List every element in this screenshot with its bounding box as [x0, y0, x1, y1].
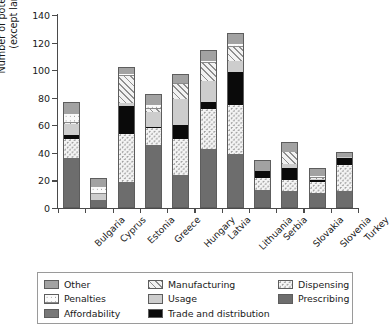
legend-label: Prescribing	[298, 293, 349, 304]
legend-label: Manufacturing	[168, 279, 235, 290]
x-axis-tick	[167, 208, 168, 213]
legend-swatch-penalties	[44, 294, 59, 304]
x-axis-tick	[58, 208, 59, 213]
legend-swatch-dispensing	[278, 280, 293, 290]
y-axis-tick	[52, 15, 57, 16]
x-axis-tick	[140, 208, 141, 213]
legend-grid: OtherManufacturingDispensingPenaltiesUsa…	[44, 277, 348, 321]
x-axis-tick	[194, 208, 195, 213]
x-axis-tick-label: Greece	[172, 214, 203, 245]
legend-row: OtherManufacturingDispensing	[44, 277, 348, 292]
legend-swatch-prescribing	[278, 294, 293, 304]
x-axis-tick	[85, 208, 86, 213]
legend-row: PenaltiesUsagePrescribing	[44, 292, 348, 307]
y-axis-tick	[52, 153, 57, 154]
legend-swatch-trade	[148, 309, 163, 319]
legend-item-dispensing[interactable]: Dispensing	[278, 279, 348, 290]
legend-item-usage[interactable]: Usage	[148, 293, 278, 304]
legend-label: Penalties	[64, 293, 106, 304]
legend-label: Dispensing	[298, 279, 349, 290]
legend-item-penalties[interactable]: Penalties	[44, 293, 148, 304]
x-axis-tick-label: Estonia	[145, 214, 177, 246]
x-axis-tick	[222, 208, 223, 213]
x-axis-tick	[249, 208, 250, 213]
legend-item-affordability[interactable]: Affordability	[44, 308, 148, 319]
legend-label: Usage	[168, 293, 197, 304]
legend-row: AffordabilityTrade and distribution	[44, 306, 348, 321]
legend-item-other[interactable]: Other	[44, 279, 148, 290]
y-axis-tick	[52, 98, 57, 99]
y-axis-tick	[52, 43, 57, 44]
legend-swatch-other	[44, 280, 59, 290]
legend-item-manufacturing[interactable]: Manufacturing	[148, 279, 278, 290]
legend-item-prescribing[interactable]: Prescribing	[278, 293, 348, 304]
y-axis-tick	[52, 180, 57, 181]
legend-item-trade[interactable]: Trade and distribution	[148, 308, 278, 319]
x-axis-tick	[331, 208, 332, 213]
legend-label: Other	[64, 279, 90, 290]
legend-swatch-usage	[148, 294, 163, 304]
y-axis-tick	[52, 70, 57, 71]
legend-swatch-manufacturing	[148, 280, 163, 290]
legend-swatch-affordability	[44, 309, 59, 319]
x-axis-tick	[276, 208, 277, 213]
x-axis-tick	[358, 208, 359, 213]
legend-label: Affordability	[64, 308, 120, 319]
y-axis-tick	[52, 208, 57, 209]
x-axis-tick	[113, 208, 114, 213]
y-axis-tick	[52, 125, 57, 126]
chart-legend: OtherManufacturingDispensingPenaltiesUsa…	[37, 272, 353, 324]
legend-label: Trade and distribution	[168, 308, 270, 319]
x-axis-tick	[303, 208, 304, 213]
